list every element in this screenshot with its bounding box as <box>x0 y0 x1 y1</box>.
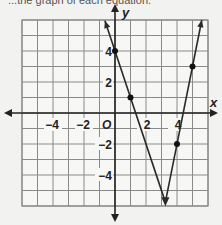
coordinate-graph: yx O−4−22442−2−4 <box>0 0 222 225</box>
x-tick-label: −4 <box>45 118 59 132</box>
y-axis-label: y <box>121 5 130 20</box>
x-axis-left-arrow-icon <box>4 109 12 117</box>
y-axis-down-arrow-icon <box>111 214 119 222</box>
x-tick-label: 2 <box>144 118 151 132</box>
y-tick-label: 2 <box>105 76 112 90</box>
data-point <box>112 48 118 54</box>
y-axis-up-arrow-icon <box>111 4 119 12</box>
data-point <box>174 141 180 147</box>
data-point <box>190 64 196 70</box>
data-point <box>128 95 134 101</box>
x-axis-label: x <box>209 95 218 110</box>
y-tick-label: −4 <box>98 169 112 183</box>
x-axis-right-arrow-icon <box>210 109 218 117</box>
x-tick-label: −2 <box>76 118 90 132</box>
y-tick-label: 4 <box>105 45 112 59</box>
origin-label: O <box>102 118 112 132</box>
y-tick-label: −2 <box>98 138 112 152</box>
